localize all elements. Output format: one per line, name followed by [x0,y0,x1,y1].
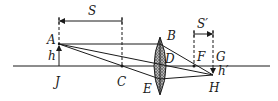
label-S: S [88,4,96,18]
point-A-dot [58,43,60,45]
lens-diagram: A h J C S B D E S′ F G h′ H [0,0,278,101]
label-h-prime: h′ [218,64,229,78]
label-J: J [52,75,61,89]
label-H: H [208,81,220,95]
point-F-dot [193,65,196,68]
ray-E-H-parallel [160,75,213,79]
label-E: E [142,82,152,96]
label-F: F [196,50,206,64]
label-C: C [117,75,126,89]
label-S-prime: S′ [197,17,208,31]
label-G: G [216,50,226,64]
label-h: h [48,49,56,63]
point-C-dot [121,65,124,68]
label-B: B [166,29,176,43]
label-A: A [46,33,56,47]
label-D: D [164,52,175,66]
